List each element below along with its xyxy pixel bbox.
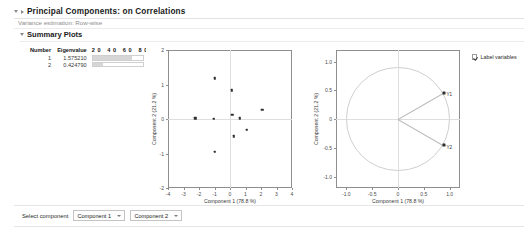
component-x-dropdown[interactable]: Component 1 xyxy=(73,210,125,221)
x-tick-label: 1.0 xyxy=(446,191,453,197)
y-tick-mark xyxy=(334,148,336,149)
x-tick-mark xyxy=(292,188,293,190)
loading-point xyxy=(442,91,445,94)
x-tick-mark xyxy=(372,188,373,190)
col-header-bar-axis: 20 40 60 80 xyxy=(90,47,153,55)
label-variables-label: Label variables xyxy=(480,54,516,60)
x-tick-mark xyxy=(261,188,262,190)
table-header-row: Number Eigenvalue 20 40 60 80 xyxy=(27,47,153,55)
x-tick-mark xyxy=(424,188,425,190)
page-title: Principal Components: on Correlations xyxy=(27,7,185,16)
y-tick-mark xyxy=(334,90,336,91)
x-tick-mark xyxy=(215,188,216,190)
pca-report-page: Principal Components: on Correlations Va… xyxy=(0,0,532,234)
percent-bar-fill xyxy=(93,56,132,60)
select-component-label: Select component xyxy=(22,213,68,219)
x-tick-mark xyxy=(246,188,247,190)
cell-percent-bar xyxy=(90,55,153,62)
triangle-down-icon[interactable] xyxy=(14,10,18,13)
y-tick-mark xyxy=(166,154,168,155)
y-tick-mark xyxy=(334,62,336,63)
loading-circle-plot: -1.0-0.500.51.0-1.0-0.500.51.0Y1Y2Compon… xyxy=(308,45,468,205)
cell-number: 2 xyxy=(27,61,54,68)
x-tick-mark xyxy=(230,188,231,190)
loading-label: Y1 xyxy=(446,92,452,97)
divider-section xyxy=(20,41,524,42)
component-x-value: Component 1 xyxy=(77,213,111,219)
x-tick-mark xyxy=(450,188,451,190)
x-tick-label: 0.5 xyxy=(420,191,427,197)
x-tick-label: 4 xyxy=(291,191,294,197)
summary-plots-header-row[interactable]: Summary Plots xyxy=(20,30,82,39)
chevron-down-icon[interactable] xyxy=(117,215,121,217)
eigenvalue-table: Number Eigenvalue 20 40 60 80 11.5752102… xyxy=(27,47,153,68)
y-tick-mark xyxy=(334,119,336,120)
table-row: 11.575210 xyxy=(27,55,153,62)
x-tick-label: -1 xyxy=(212,191,216,197)
x-tick-label: 3 xyxy=(275,191,278,197)
y-tick-label: 1 xyxy=(161,82,164,88)
y-tick-label: -1.0 xyxy=(323,174,332,180)
score-scatter-plot: -4-3-2-101234-2-1012Component 1 (78.8 %)… xyxy=(146,45,298,205)
component-y-dropdown[interactable]: Component 2 xyxy=(130,210,182,221)
cell-eigenvalue: 0.424790 xyxy=(54,61,90,68)
loading-point xyxy=(442,144,445,147)
y-tick-label: -2 xyxy=(160,185,164,191)
section-title: Summary Plots xyxy=(27,30,82,39)
variance-estimation-subtitle: Variance estimation: Row-wise xyxy=(18,19,102,26)
report-title-row[interactable]: Principal Components: on Correlations xyxy=(14,7,185,16)
y-tick-label: 0 xyxy=(329,116,332,122)
triangle-right-icon[interactable] xyxy=(21,10,24,14)
y-axis-title: Component 2 (21.2 %) xyxy=(313,93,319,145)
triangle-down-icon[interactable] xyxy=(20,33,24,36)
x-tick-mark xyxy=(184,188,185,190)
reference-line-vertical xyxy=(230,50,231,188)
x-tick-mark xyxy=(398,188,399,190)
cell-eigenvalue: 1.575210 xyxy=(54,55,90,62)
select-component-bar: Select component Component 1 Component 2 xyxy=(22,210,182,221)
x-tick-mark xyxy=(277,188,278,190)
y-tick-label: 2 xyxy=(161,47,164,53)
col-header-eigenvalue: Eigenvalue xyxy=(54,47,90,55)
x-tick-label: -1.0 xyxy=(342,191,351,197)
divider-bottom xyxy=(14,205,524,206)
table-row: 20.424790 xyxy=(27,61,153,68)
x-tick-mark xyxy=(346,188,347,190)
col-header-number: Number xyxy=(27,47,54,55)
percent-bar-track xyxy=(92,62,144,68)
x-tick-label: -2 xyxy=(197,191,201,197)
y-tick-label: -0.5 xyxy=(323,145,332,151)
x-tick-label: 2 xyxy=(260,191,263,197)
x-tick-mark xyxy=(168,188,169,190)
x-tick-label: 0 xyxy=(229,191,232,197)
y-tick-label: -1 xyxy=(160,151,164,157)
cell-percent-bar xyxy=(90,61,153,68)
x-axis-title: Component 1 (78.8 %) xyxy=(372,198,424,204)
x-tick-label: -4 xyxy=(166,191,170,197)
percent-bar-fill xyxy=(93,63,104,67)
divider-foot xyxy=(14,226,524,227)
y-tick-label: 0 xyxy=(161,116,164,122)
label-variables-option[interactable]: Label variables xyxy=(472,54,517,60)
chevron-down-icon[interactable] xyxy=(174,215,178,217)
x-tick-label: -3 xyxy=(181,191,185,197)
y-tick-mark xyxy=(166,85,168,86)
y-tick-mark xyxy=(166,188,168,189)
x-tick-label: 0 xyxy=(397,191,400,197)
component-y-value: Component 2 xyxy=(134,213,168,219)
cell-number: 1 xyxy=(27,55,54,62)
y-tick-mark xyxy=(166,50,168,51)
x-tick-label: 1 xyxy=(244,191,247,197)
x-tick-label: -0.5 xyxy=(368,191,377,197)
checkbox-icon[interactable] xyxy=(472,54,477,59)
y-axis-title: Component 2 (21.2 %) xyxy=(151,93,157,145)
loading-label: Y2 xyxy=(446,145,452,150)
y-tick-label: 0.5 xyxy=(325,87,332,93)
y-tick-mark xyxy=(166,119,168,120)
x-axis-title: Component 1 (78.8 %) xyxy=(204,198,256,204)
divider-sub xyxy=(14,28,524,29)
x-tick-mark xyxy=(199,188,200,190)
percent-bar-track xyxy=(92,55,144,61)
y-tick-mark xyxy=(334,177,336,178)
y-tick-label: 1.0 xyxy=(325,59,332,65)
